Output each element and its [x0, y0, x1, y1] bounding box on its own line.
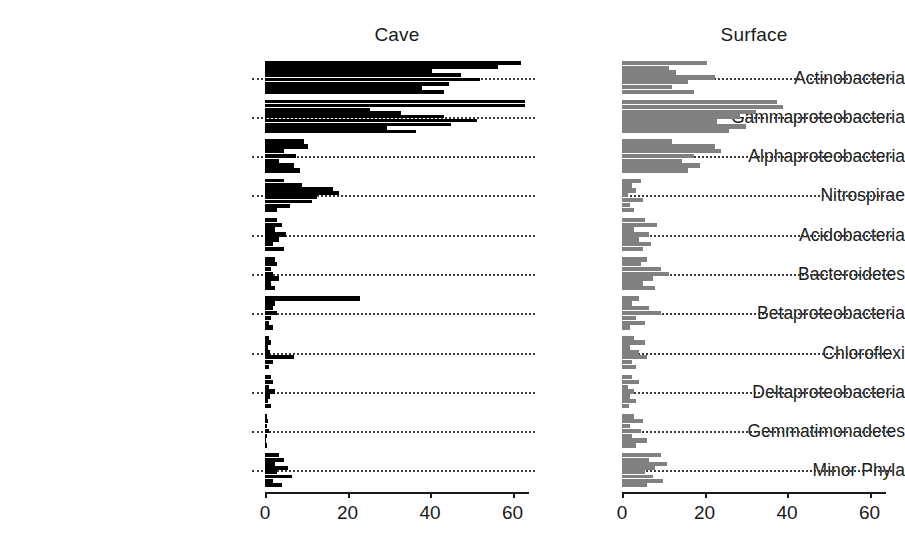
bar [622, 257, 647, 261]
bar [622, 139, 672, 143]
bar [622, 267, 661, 271]
gridline [622, 195, 892, 197]
bar [265, 90, 444, 94]
bar [622, 218, 645, 222]
bar [622, 114, 740, 118]
bar [622, 438, 647, 442]
bar [622, 286, 655, 290]
bar [265, 316, 271, 320]
bar [622, 208, 634, 212]
leader-dots [252, 392, 263, 394]
bar [265, 281, 271, 285]
bar [622, 100, 777, 104]
bar [622, 193, 628, 197]
bar [265, 399, 268, 403]
x-tick-label: 40 [410, 502, 450, 524]
bar [622, 340, 645, 344]
bar [265, 424, 267, 428]
bar [622, 179, 641, 183]
gridline [265, 431, 535, 433]
bar [265, 237, 279, 241]
gridline [622, 392, 892, 394]
bar [622, 321, 645, 325]
bar [265, 272, 273, 276]
bar [265, 144, 308, 148]
plot-area-cave [265, 58, 529, 490]
bar [622, 80, 688, 84]
bar [265, 247, 284, 251]
gridline [265, 235, 535, 237]
x-tick-label: 20 [685, 502, 725, 524]
bar [265, 380, 273, 384]
bar [265, 325, 273, 329]
bar [265, 276, 279, 280]
gridline [265, 274, 535, 276]
bar [622, 301, 632, 305]
leader-dots [252, 156, 263, 158]
bar [622, 144, 715, 148]
bar [622, 149, 721, 153]
gridline [265, 353, 535, 355]
x-tick-label: 0 [245, 502, 285, 524]
x-tick [870, 492, 872, 498]
bar [622, 394, 630, 398]
bar [622, 414, 634, 418]
bar [622, 399, 636, 403]
leader-dots [252, 117, 263, 119]
bar [265, 375, 271, 379]
x-tick [513, 492, 515, 498]
bar [622, 462, 667, 466]
bar [265, 462, 275, 466]
bar [622, 183, 632, 187]
bar [265, 82, 449, 86]
bar [622, 223, 657, 227]
bar [622, 247, 643, 251]
bar [622, 443, 636, 447]
leader-dots [252, 195, 263, 197]
bar [622, 419, 643, 423]
bar [622, 237, 639, 241]
bar [622, 105, 783, 109]
figure-canvas: Cave Surface ActinobacteriaGammaproteoba… [0, 0, 905, 541]
bar [622, 159, 682, 163]
leader-dots [252, 431, 263, 433]
gridline [622, 353, 892, 355]
bar [265, 168, 300, 172]
bar [622, 85, 672, 89]
gridline [622, 470, 892, 472]
bar [265, 414, 267, 418]
bar [265, 434, 267, 438]
bar [265, 130, 416, 133]
bar [622, 75, 715, 79]
bar [622, 262, 641, 266]
bar [622, 306, 649, 310]
bar [265, 223, 282, 227]
bar [265, 227, 275, 231]
bar [265, 311, 277, 315]
bar [265, 232, 286, 236]
bar [265, 139, 304, 143]
bar [622, 385, 628, 389]
bar [622, 129, 729, 133]
bar [265, 262, 277, 266]
x-tick [705, 492, 707, 498]
bar [265, 218, 277, 222]
bar [265, 242, 273, 246]
bar [622, 168, 688, 172]
bar [265, 404, 271, 408]
bar [622, 336, 634, 340]
bar [265, 394, 270, 398]
bar [265, 61, 521, 65]
x-tick-label: 0 [602, 502, 642, 524]
bar [622, 424, 630, 428]
bar [622, 154, 694, 158]
x-axis-surface [622, 492, 886, 494]
x-tick [622, 492, 624, 498]
bar [265, 360, 273, 364]
bar [622, 198, 643, 202]
bar [622, 124, 746, 128]
x-axis-cave [265, 492, 529, 494]
leader-dots [252, 78, 263, 80]
bar [265, 154, 296, 158]
leader-dots [252, 353, 263, 355]
